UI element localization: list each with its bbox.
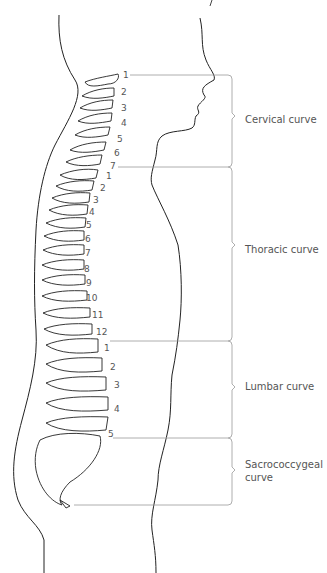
cervical-curve-label: Cervical curve (245, 114, 317, 127)
thoracic-vertebra-2: 2 (100, 184, 106, 193)
thoracic-vertebra-10: 10 (86, 294, 97, 303)
cervical-vertebra-1: 1 (123, 71, 129, 80)
thoracic-vertebra-3: 3 (93, 196, 99, 205)
thoracic-vertebra-7: 7 (85, 249, 91, 258)
thoracic-vertebra-12: 12 (96, 328, 107, 337)
lumbar-curve-label: Lumbar curve (245, 381, 314, 394)
cervical-vertebra-4: 4 (121, 119, 127, 128)
cervical-vertebra-6: 6 (114, 149, 120, 158)
thoracic-vertebra-9: 9 (86, 279, 92, 288)
thoracic-vertebra-4: 4 (89, 208, 95, 217)
lumbar-vertebra-1: 1 (104, 344, 110, 353)
thoracic-vertebra-6: 6 (85, 235, 91, 244)
cervical-vertebra-7: 7 (110, 162, 116, 171)
cervical-vertebra-2: 2 (121, 88, 127, 97)
lumbar-vertebra-4: 4 (114, 405, 120, 414)
thoracic-vertebra-1: 1 (106, 172, 112, 181)
lumbar-vertebra-2: 2 (110, 363, 116, 372)
top-tick (210, 0, 212, 6)
thoracic-vertebra-5: 5 (86, 221, 92, 230)
thoracic-curve-label: Thoracic curve (245, 244, 319, 257)
front-outline (151, 18, 214, 573)
sacrococcygeal-label-line1: Sacrococcygeal (245, 459, 323, 472)
lumbar-vertebra-3: 3 (114, 381, 120, 390)
lumbar-vertebra-5: 5 (108, 430, 114, 439)
sacrococcygeal-curve-label: Sacrococcygeal curve (245, 459, 323, 484)
cervical-vertebra-3: 3 (121, 104, 127, 113)
spine-diagram (0, 0, 327, 573)
vertebral-column (35, 74, 118, 508)
cervical-vertebra-5: 5 (117, 135, 123, 144)
sacrococcygeal-label-line2: curve (245, 472, 323, 485)
thoracic-vertebra-11: 11 (92, 311, 103, 320)
thoracic-vertebra-8: 8 (84, 265, 90, 274)
